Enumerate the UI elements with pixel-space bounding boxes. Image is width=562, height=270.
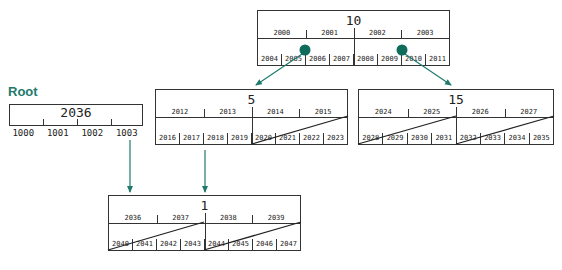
diagonal-line xyxy=(252,116,348,144)
diagonal-line xyxy=(204,222,301,250)
diagonal-line xyxy=(358,116,456,144)
arrow-to-node-5 xyxy=(256,52,305,85)
pointer-dot xyxy=(397,45,408,56)
pointer-dot xyxy=(300,45,311,56)
arrow-to-node-15 xyxy=(402,52,451,85)
connectors-overlay xyxy=(0,0,562,270)
diagonal-line xyxy=(456,116,554,144)
diagonal-line xyxy=(108,222,204,250)
